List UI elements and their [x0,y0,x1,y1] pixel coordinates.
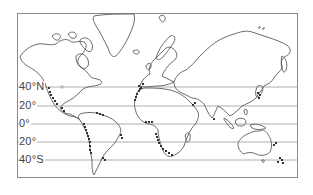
marker-point [258,97,260,99]
world-map [0,0,313,195]
marker-point [194,102,196,104]
marker-point [160,145,162,147]
marker-point [171,154,173,156]
marker-point [136,93,138,95]
marker-point [155,133,157,135]
kamchatka-outline [281,56,287,72]
new-guinea-outline [250,124,266,129]
marker-point [104,159,106,161]
marker-cluster-central-america-pacific [61,107,65,112]
marker-point [63,110,65,112]
marker-cluster-brazil-east-coast [120,134,123,139]
arctic-dots-outline [259,27,265,30]
marker-point [279,157,281,159]
marker-cluster-southwest-pacific [273,142,277,146]
marker-point [135,96,137,98]
marker-point [282,162,284,164]
marker-point [86,132,88,134]
asia-outline [174,31,290,118]
marker-cluster-new-zealand [277,157,284,164]
svalbard-outline [159,15,165,22]
marker-point [84,126,86,128]
marker-point [90,152,92,154]
marker-point [50,94,52,96]
marker-point [48,87,50,89]
greenland-outline [93,14,134,57]
marker-point [102,114,104,116]
africa-outline [135,88,199,157]
australia-outline [238,130,272,155]
marker-point [138,85,140,87]
marker-point [54,100,56,102]
marker-point [273,144,275,146]
marker-cluster-caribbean-venezuela [96,112,104,116]
marker-cluster-south-america-west-coast [83,123,92,154]
marker-point [87,135,89,137]
marker-point [142,83,144,85]
marker-point [102,157,104,159]
marker-point [99,113,101,115]
marker-point [121,137,123,139]
marker-point [257,92,259,94]
marker-point [168,152,170,154]
marker-point [158,142,160,144]
marker-point [120,134,122,136]
marker-point [192,104,194,106]
marker-point [213,118,215,120]
latitude-label-20s: 20° [19,136,37,147]
iceland-outline [133,50,139,54]
marker-point [56,103,58,105]
marker-point [157,139,159,141]
south-america-outline [79,113,121,176]
tasmania-outline [262,160,264,163]
marker-point [83,123,85,125]
marker-cluster-gulf-of-guinea [145,121,153,123]
marker-cluster-arabian-coast [192,102,196,106]
latitude-label-40n: 40°N [19,81,45,92]
borneo-outline [235,118,246,126]
marker-point [88,138,90,140]
marker-point [140,87,142,89]
marker-point [259,94,261,96]
marker-point [134,99,136,101]
marker-point [277,161,279,163]
sumatra-outline [224,118,234,129]
marker-point [145,121,147,123]
marker-point [49,91,51,93]
latitude-label-equator: 0° [19,118,31,129]
philippines-outline [244,109,247,115]
europe-outline [140,47,177,87]
coastlines [20,14,290,175]
marker-point [61,107,63,109]
location-dot [60,85,64,89]
marker-point [148,121,150,123]
marker-point [165,150,167,152]
marker-point [52,97,54,99]
latitude-label-20n: 20° [19,100,37,111]
marker-point [89,149,91,151]
marker-point [281,159,283,161]
marker-point [96,112,98,114]
marker-point [89,145,91,147]
latitude-label-40s: 40°S [19,154,45,165]
marker-cluster-india-tip [213,118,215,120]
marker-point [156,136,158,138]
marker-point [275,142,277,144]
marker-point [89,141,91,143]
marker-clusters [48,83,284,164]
madagascar-outline [185,133,190,142]
marker-point [151,121,153,123]
marker-point [162,148,164,150]
marker-point [138,90,140,92]
marker-point [85,129,87,131]
